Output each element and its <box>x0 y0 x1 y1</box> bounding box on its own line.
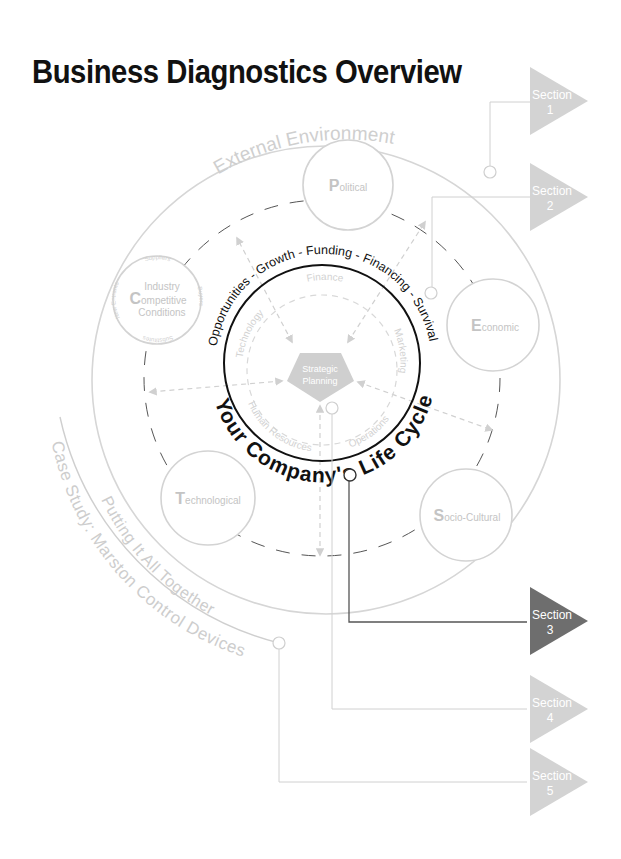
factor-industry-competitive[interactable]: Industry Competitive Conditions Supplier… <box>110 254 204 344</box>
strategic-label-line1: Strategic <box>302 364 338 374</box>
section-4-word: Section <box>532 696 572 710</box>
section-4-number: 4 <box>547 711 554 725</box>
section-3-button[interactable]: Section3 <box>530 587 588 655</box>
business-diagnostics-diagram: External Environment Strategic Planning … <box>0 0 621 859</box>
connector-node-2 <box>425 287 437 299</box>
connector-node-1 <box>484 166 496 178</box>
section-1-word: Section <box>532 88 572 102</box>
strategic-label-line2: Planning <box>302 376 337 386</box>
section-1-number: 1 <box>547 103 554 117</box>
connector-node-3 <box>344 469 356 481</box>
factor-socio-cultural[interactable]: Socio-Cultural <box>420 469 512 561</box>
connector-node-5 <box>273 637 285 649</box>
connector-section-5 <box>279 649 527 782</box>
section-4-button[interactable]: Section4 <box>530 675 588 743</box>
section-5-word: Section <box>532 769 572 783</box>
factor-technological[interactable]: Technological <box>161 451 255 545</box>
industry-line1: Industry <box>144 281 180 292</box>
section-2-number: 2 <box>547 199 554 213</box>
section-3-word: Section <box>532 608 572 622</box>
arrow-west <box>150 381 282 392</box>
section-1-button[interactable]: Section1 <box>530 67 588 135</box>
connector-node-4 <box>326 402 338 414</box>
function-finance: Finance <box>306 271 345 284</box>
connector-section-1 <box>490 102 530 167</box>
function-marketing: Marketing <box>392 327 409 374</box>
section-arrows: Section1Section2Section3Section4Section5 <box>530 67 588 816</box>
industry-line3: Conditions <box>138 307 185 318</box>
strategic-planning-core: Strategic Planning <box>287 353 354 402</box>
factor-economic[interactable]: Economic <box>447 279 539 371</box>
section-2-word: Section <box>532 184 572 198</box>
section-3-number: 3 <box>547 623 554 637</box>
arrow-political-right <box>348 222 425 342</box>
factor-political[interactable]: Political <box>303 140 393 230</box>
section-5-number: 5 <box>547 784 554 798</box>
connector-section-2 <box>432 197 533 287</box>
section-2-button[interactable]: Section2 <box>530 163 588 231</box>
section-5-button[interactable]: Section5 <box>530 748 588 816</box>
